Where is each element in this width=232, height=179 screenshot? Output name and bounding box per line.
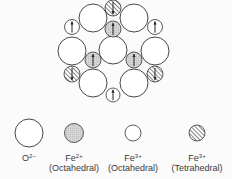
oxygen-ion	[141, 37, 169, 65]
legend-symbols	[15, 119, 205, 147]
site-type: (Tetrahedral)	[157, 163, 232, 173]
oxygen-ion	[15, 119, 43, 147]
fe3-octahedral-ion	[148, 20, 163, 35]
oxygen-ion	[79, 4, 107, 32]
ion-charge: 3+	[199, 153, 206, 159]
fe3-tetrahedral-ion	[105, 0, 121, 16]
ion-symbol: Fe	[65, 153, 76, 163]
ion-charge: 2+	[76, 153, 83, 159]
oxygen-ion	[79, 69, 107, 97]
fe3-octahedral-ion	[125, 125, 141, 141]
oxygen-ion	[120, 4, 148, 32]
fe3-octahedral-ion	[65, 20, 80, 35]
fe2-octahedral-ion	[105, 21, 121, 37]
ion-symbol: Fe	[124, 153, 135, 163]
crystal-lattice	[58, 0, 169, 102]
fe2-octahedral-ion	[65, 124, 84, 143]
fe3-octahedral-ion	[106, 88, 120, 102]
ion-charge: 3+	[135, 153, 142, 159]
ion-symbol: Fe	[188, 153, 199, 163]
oxygen-ion	[120, 69, 148, 97]
fe3-tetrahedral-ion	[189, 125, 205, 141]
legend-label-fe3-tet: Fe3+(Tetrahedral)	[157, 151, 232, 173]
fe3-tetrahedral-ion	[147, 66, 163, 82]
oxygen-ion	[58, 37, 86, 65]
oxygen-ion	[99, 36, 127, 64]
fe2-octahedral-ion	[85, 52, 101, 68]
fe2-octahedral-ion	[126, 52, 142, 68]
fe3-tetrahedral-ion	[64, 66, 80, 82]
